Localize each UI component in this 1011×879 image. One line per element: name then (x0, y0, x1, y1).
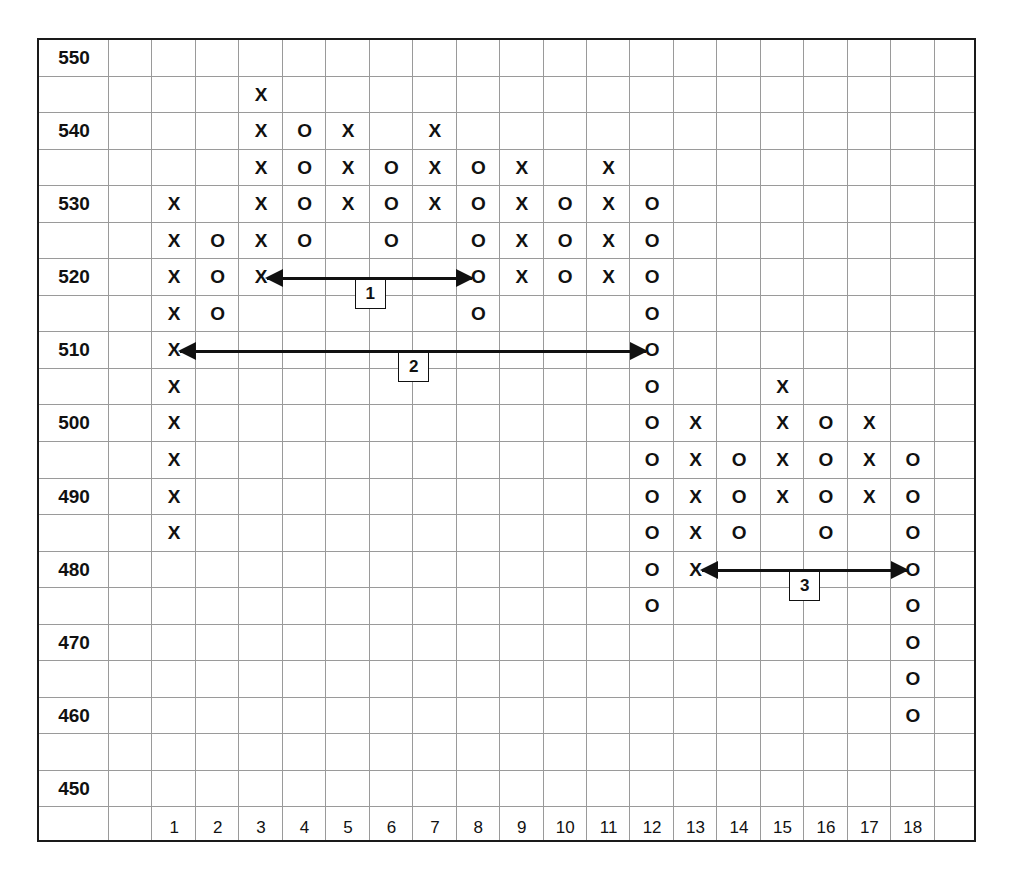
o-box-mark: O (630, 552, 673, 589)
x-axis-label: 17 (848, 807, 891, 844)
x-axis-label: 4 (283, 807, 326, 844)
x-box-mark: X (761, 442, 804, 479)
o-box-mark: O (630, 369, 673, 406)
x-box-mark: X (239, 113, 282, 150)
x-box-mark: X (500, 186, 543, 223)
x-axis-label: 1 (152, 807, 195, 844)
grid-horizontal-line (39, 697, 974, 698)
x-box-mark: X (152, 442, 195, 479)
o-box-mark: O (630, 186, 673, 223)
y-axis-label: 460 (39, 698, 109, 735)
o-box-mark: O (196, 259, 239, 296)
x-axis-label: 6 (370, 807, 413, 844)
o-box-mark: O (370, 223, 413, 260)
y-axis-label: 470 (39, 625, 109, 662)
arrowhead-right-icon (891, 561, 909, 579)
o-box-mark: O (370, 186, 413, 223)
x-box-mark: X (413, 113, 456, 150)
y-axis-label: 480 (39, 552, 109, 589)
x-box-mark: X (848, 405, 891, 442)
x-axis-label: 10 (544, 807, 587, 844)
y-axis-label: 550 (39, 40, 109, 77)
annotation-label-box: 3 (789, 571, 820, 601)
grid-horizontal-line (39, 112, 974, 113)
x-box-mark: X (152, 296, 195, 333)
o-box-mark: O (804, 405, 847, 442)
x-axis-label: 5 (326, 807, 369, 844)
o-box-mark: O (630, 442, 673, 479)
x-box-mark: X (152, 369, 195, 406)
y-axis-label: 500 (39, 405, 109, 442)
x-axis-label: 15 (761, 807, 804, 844)
o-box-mark: O (717, 442, 760, 479)
x-box-mark: X (674, 442, 717, 479)
x-box-mark: X (587, 186, 630, 223)
o-box-mark: O (891, 625, 934, 662)
x-box-mark: X (413, 186, 456, 223)
x-box-mark: X (326, 150, 369, 187)
o-box-mark: O (544, 223, 587, 260)
x-box-mark: X (152, 259, 195, 296)
o-box-mark: O (630, 296, 673, 333)
x-box-mark: X (587, 223, 630, 260)
x-axis-label: 13 (674, 807, 717, 844)
x-axis-label: 8 (457, 807, 500, 844)
point-and-figure-chart: 5505405305205105004904804704604501234567… (37, 38, 976, 842)
o-box-mark: O (630, 259, 673, 296)
o-box-mark: O (717, 515, 760, 552)
o-box-mark: O (283, 150, 326, 187)
x-box-mark: X (326, 113, 369, 150)
x-axis-label: 2 (196, 807, 239, 844)
x-box-mark: X (152, 479, 195, 516)
o-box-mark: O (891, 661, 934, 698)
x-axis-label: 12 (630, 807, 673, 844)
arrowhead-right-icon (630, 342, 648, 360)
x-box-mark: X (761, 369, 804, 406)
x-box-mark: X (152, 186, 195, 223)
o-box-mark: O (630, 588, 673, 625)
x-axis-label: 11 (587, 807, 630, 844)
x-box-mark: X (239, 223, 282, 260)
o-box-mark: O (544, 259, 587, 296)
o-box-mark: O (891, 515, 934, 552)
x-box-mark: X (239, 150, 282, 187)
o-box-mark: O (804, 515, 847, 552)
x-axis-label: 3 (239, 807, 282, 844)
x-box-mark: X (848, 479, 891, 516)
o-box-mark: O (457, 150, 500, 187)
grid-horizontal-line (39, 624, 974, 625)
o-box-mark: O (804, 442, 847, 479)
x-box-mark: X (152, 515, 195, 552)
x-box-mark: X (326, 186, 369, 223)
y-axis-label: 520 (39, 259, 109, 296)
o-box-mark: O (891, 588, 934, 625)
arrowhead-right-icon (456, 269, 474, 287)
x-axis-label: 7 (413, 807, 456, 844)
x-box-mark: X (500, 150, 543, 187)
o-box-mark: O (283, 113, 326, 150)
x-box-mark: X (674, 479, 717, 516)
o-box-mark: O (630, 223, 673, 260)
o-box-mark: O (891, 698, 934, 735)
x-axis-label: 16 (804, 807, 847, 844)
x-box-mark: X (587, 150, 630, 187)
o-box-mark: O (370, 150, 413, 187)
x-box-mark: X (152, 405, 195, 442)
o-box-mark: O (457, 296, 500, 333)
x-box-mark: X (500, 259, 543, 296)
arrowhead-left-icon (178, 342, 196, 360)
o-box-mark: O (804, 479, 847, 516)
annotation-label-box: 2 (398, 352, 429, 382)
y-axis-label: 490 (39, 479, 109, 516)
y-axis-label: 530 (39, 186, 109, 223)
x-axis-label: 14 (717, 807, 760, 844)
grid-horizontal-line (39, 733, 974, 734)
x-box-mark: X (674, 405, 717, 442)
o-box-mark: O (457, 223, 500, 260)
o-box-mark: O (544, 186, 587, 223)
arrowhead-left-icon (700, 561, 718, 579)
x-box-mark: X (500, 223, 543, 260)
grid-horizontal-line (39, 660, 974, 661)
o-box-mark: O (196, 223, 239, 260)
o-box-mark: O (717, 479, 760, 516)
